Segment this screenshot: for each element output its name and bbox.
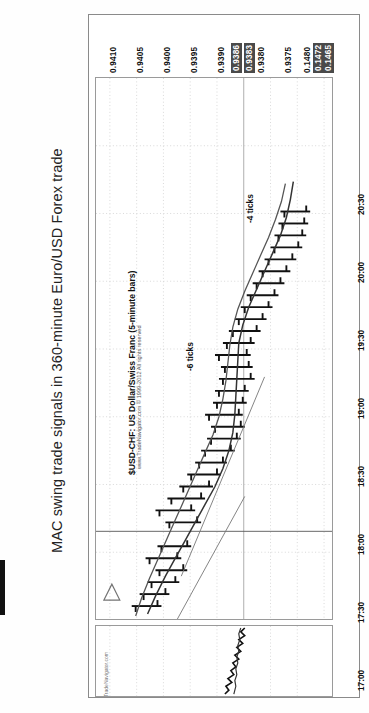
- page-edge-artifact: [0, 560, 5, 615]
- price-tick-label-3: 0.9395: [190, 47, 199, 73]
- annot-minus-6-ticks: -6 ticks: [185, 317, 197, 371]
- time-tick-label-1930: 19:30: [357, 330, 366, 351]
- time-tick-label-2030: 20:30: [357, 194, 366, 215]
- price-tick-label-9: 0.1480: [303, 47, 312, 73]
- time-tick-label-2000: 20:00: [357, 262, 366, 283]
- time-tick-label-1730: 17:30: [357, 602, 366, 623]
- price-tick-label-8: 0.9375: [284, 47, 293, 73]
- time-tick-label-1800: 18:00: [357, 534, 366, 555]
- page-canvas: MAC swing trade signals in 360-minute Eu…: [0, 0, 369, 713]
- price-tick-label-0: 0.9410: [109, 47, 118, 73]
- vendor-watermark: TradeNavigator.com: [103, 637, 113, 697]
- price-tick-label-1: 0.9405: [136, 47, 145, 73]
- time-tick-label-1900: 19:00: [357, 398, 366, 419]
- copyright-notice: www.TradeNavigator.com © 1999-2012 All r…: [135, 299, 147, 469]
- time-tick-label-1700: 17:00: [357, 670, 366, 691]
- price-tick-label-4: 0.9390: [217, 47, 226, 73]
- annot-minus-4-ticks: -4 ticks: [245, 169, 257, 223]
- indicator-pane-graphics: [96, 626, 332, 696]
- price-tick-label-2: 0.9400: [163, 47, 172, 73]
- price-tick-label-7: 0.9380: [257, 47, 266, 73]
- page-title: MAC swing trade signals in 360-minute Eu…: [44, 73, 70, 553]
- price-axis: 0.94100.94050.94000.93950.93900.93860.93…: [89, 15, 359, 77]
- price-pane[interactable]: $USD-CHF: US Dollar/Swiss Franc (5-minut…: [95, 77, 333, 620]
- indicator-pane[interactable]: TradeNavigator.com: [95, 625, 333, 697]
- broker-logo-icon: [104, 584, 120, 600]
- time-axis: 17:0017:3018:0018:3019:0019:3020:0020:30: [333, 15, 359, 697]
- time-tick-label-1830: 18:30: [357, 466, 366, 487]
- plot-wrapper: 0.94100.94050.94000.93950.93900.93860.93…: [89, 15, 359, 697]
- chart-card: 0.94100.94050.94000.93950.93900.93860.93…: [88, 14, 360, 698]
- price-tick-label-6: 0.9383: [244, 43, 255, 73]
- price-tick-label-5: 0.9386: [231, 43, 242, 73]
